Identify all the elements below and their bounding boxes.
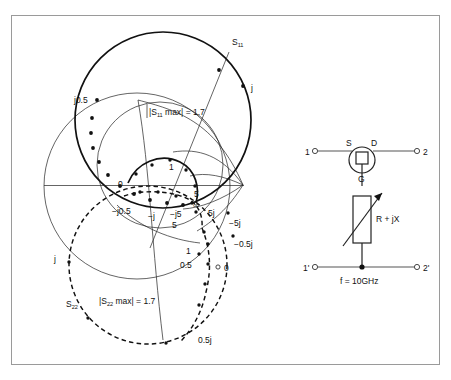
- label-j05: j0.5: [73, 95, 88, 105]
- label-s22-max: |S22 max| = 1.7: [99, 296, 156, 307]
- resistance-arc-2: [173, 151, 243, 185]
- terminal-2: [414, 148, 419, 153]
- label-minus-j5: −j5: [170, 209, 182, 219]
- label-terminal-1: 1: [305, 147, 310, 157]
- terminal-1: [312, 148, 317, 153]
- label-s11-max: |S11 max| = 1.7: [149, 107, 205, 118]
- terminal-2-prime: [414, 264, 419, 269]
- label-zero-lower: 0: [224, 263, 229, 273]
- label-05j-bottom: 0.5j: [198, 335, 212, 345]
- label-five-mid: 5: [194, 189, 199, 199]
- label-minus-j: −j: [148, 211, 155, 221]
- label-frequency: f = 10GHz: [340, 276, 379, 286]
- label-minus-05j: −0.5j: [234, 239, 253, 249]
- label-terminal-1-prime: 1': [303, 263, 310, 273]
- s22-locus-circle: [69, 186, 227, 344]
- label-minus-5j: −5j: [229, 218, 241, 228]
- figure-canvas: S11 j j0.5 |S11 max| = 1.7 0 1 5 ∞ −j0.5…: [0, 0, 451, 380]
- s11-radial-line: [150, 52, 229, 248]
- label-five-lower: 5: [172, 220, 177, 230]
- label-s11: S11: [232, 37, 243, 48]
- junction-node: [359, 264, 364, 269]
- label-one-lower: 1: [186, 246, 191, 256]
- label-drain: D: [371, 138, 377, 148]
- label-impedance: R + jX: [376, 214, 400, 224]
- label-infinity: ∞: [193, 200, 199, 210]
- outer-construction-circle: [44, 93, 230, 279]
- s11-inner-dots: [134, 158, 196, 204]
- marker-open-zero: [216, 265, 220, 269]
- label-j-upper: j: [250, 83, 253, 93]
- label-s22: S22: [66, 299, 78, 310]
- resistance-arc-3: [190, 174, 243, 185]
- label-half: 0.5: [180, 260, 192, 270]
- label-source: S: [346, 138, 352, 148]
- label-zero-left: 0: [118, 179, 123, 189]
- circuit-group: 1 2 1' 2' S D G R + jX f = 10GHz: [303, 138, 430, 286]
- label-terminal-2-prime: 2': [423, 263, 430, 273]
- label-5j: 5j: [208, 208, 215, 218]
- label-j-left: j: [53, 254, 56, 264]
- label-terminal-2: 2: [423, 147, 428, 157]
- label-minus-j05: −j0.5: [112, 206, 131, 216]
- s22-inner-arc: [124, 192, 202, 228]
- resistance-arc-4: [183, 185, 243, 209]
- label-one-upper: 1: [169, 162, 174, 172]
- fet-channel-bar: [356, 152, 368, 164]
- label-gate: G: [358, 174, 365, 184]
- variable-arrow-head: [374, 193, 382, 201]
- s11-locus-circle: [75, 32, 251, 208]
- terminal-1-prime: [312, 264, 317, 269]
